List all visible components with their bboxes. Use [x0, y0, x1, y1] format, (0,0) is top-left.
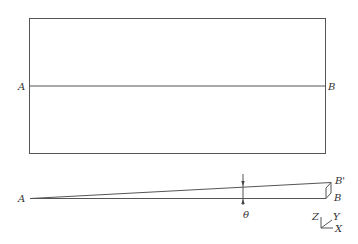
label-a-top: A [17, 81, 25, 92]
end-face-bottom-edge [326, 193, 331, 199]
arrow-down-icon [241, 181, 244, 186]
arrow-up-icon [241, 199, 244, 204]
top-view: A B [17, 19, 335, 154]
y-axis-line [321, 220, 332, 228]
end-face-top-edge [326, 183, 331, 189]
label-a-side: A [17, 193, 25, 204]
label-b-side: B [333, 192, 341, 203]
label-y: Y [333, 211, 341, 222]
beam-top-edge [30, 183, 331, 199]
label-b-prime: B' [334, 175, 345, 186]
side-view: A B' B θ [17, 174, 345, 220]
angle-theta-marker: θ [241, 174, 249, 220]
label-z: Z [311, 211, 320, 222]
coordinate-axes: Z Y X [311, 211, 343, 234]
label-theta: θ [243, 209, 249, 220]
label-b-top: B [327, 81, 335, 92]
label-x: X [334, 223, 343, 234]
diagram-canvas: A B A B' B θ Z Y X [0, 0, 358, 244]
